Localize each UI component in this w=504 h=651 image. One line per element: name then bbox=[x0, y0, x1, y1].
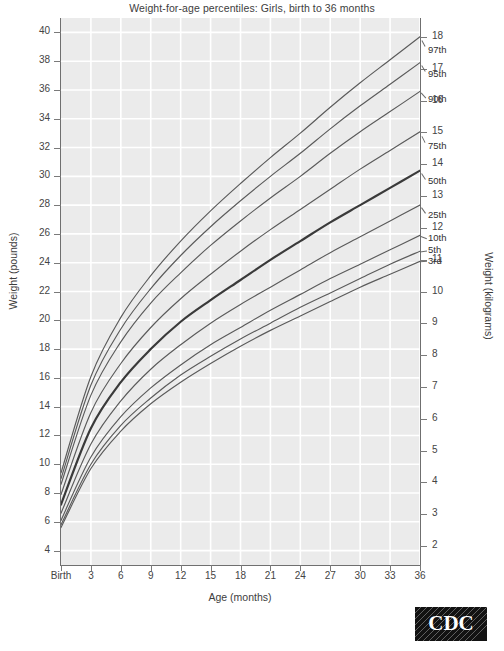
y-tick-left bbox=[54, 119, 61, 120]
percentile-leader-5th bbox=[420, 250, 427, 252]
percentile-leader-90th bbox=[421, 93, 426, 99]
y-tick-left bbox=[54, 464, 61, 465]
y-tick-left bbox=[54, 349, 61, 350]
y-tick-label-left: 24 bbox=[18, 256, 50, 267]
y-tick-left bbox=[54, 435, 61, 436]
x-tick-label: 9 bbox=[148, 570, 154, 581]
chart-title: Weight-for-age percentiles: Girls, birth… bbox=[0, 2, 504, 14]
y-tick-right bbox=[420, 482, 427, 483]
y-tick-left bbox=[54, 32, 61, 33]
y-tick-label-right: 4 bbox=[432, 475, 458, 486]
percentile-label-90th: 90th bbox=[428, 93, 447, 104]
y-tick-label-right: 12 bbox=[432, 221, 458, 232]
x-tick-label: 33 bbox=[385, 570, 396, 581]
svg-text:CDC: CDC bbox=[428, 611, 474, 635]
x-tick-label: 24 bbox=[295, 570, 306, 581]
y-tick-left bbox=[54, 205, 61, 206]
y-tick-label-right: 3 bbox=[432, 507, 458, 518]
y-tick-left bbox=[54, 61, 61, 62]
y-tick-label-left: 12 bbox=[18, 428, 50, 439]
x-tick-label: Birth bbox=[51, 570, 72, 581]
y-tick-right bbox=[420, 355, 427, 356]
y-tick-label-right: 7 bbox=[432, 380, 458, 391]
y-tick-label-left: 16 bbox=[18, 371, 50, 382]
x-tick-label: 21 bbox=[265, 570, 276, 581]
x-tick-label: 18 bbox=[235, 570, 246, 581]
y-tick-label-right: 5 bbox=[432, 444, 458, 455]
y-tick-label-right: 15 bbox=[432, 125, 458, 136]
y-tick-label-left: 18 bbox=[18, 342, 50, 353]
y-tick-right bbox=[420, 292, 427, 293]
x-tick-label: 36 bbox=[414, 570, 425, 581]
y-tick-label-right: 2 bbox=[432, 539, 458, 550]
y-tick-label-left: 38 bbox=[18, 54, 50, 65]
y-tick-right bbox=[420, 164, 427, 165]
y-tick-right bbox=[420, 419, 427, 420]
growth-chart: Weight-for-age percentiles: Girls, birth… bbox=[0, 0, 504, 651]
y-tick-left bbox=[54, 320, 61, 321]
y-tick-right bbox=[420, 101, 427, 102]
percentile-label-95th: 95th bbox=[428, 68, 447, 79]
x-tick-label: 12 bbox=[175, 570, 186, 581]
y-tick-left bbox=[54, 234, 61, 235]
y-tick-label-left: 40 bbox=[18, 25, 50, 36]
percentile-label-25th: 25th bbox=[428, 209, 447, 220]
y-tick-left bbox=[54, 292, 61, 293]
percentile-label-10th: 10th bbox=[428, 232, 447, 243]
y-tick-label-left: 14 bbox=[18, 400, 50, 411]
percentile-leader-50th bbox=[421, 173, 426, 179]
y-tick-label-left: 10 bbox=[18, 457, 50, 468]
y-axis-left-title: Weight (pounds) bbox=[7, 211, 19, 331]
x-tick-label: 27 bbox=[325, 570, 336, 581]
y-tick-right bbox=[420, 196, 427, 197]
y-tick-left bbox=[54, 551, 61, 552]
y-tick-left bbox=[54, 493, 61, 494]
percentile-label-75th: 75th bbox=[428, 140, 447, 151]
x-axis-title: Age (months) bbox=[0, 591, 480, 603]
y-tick-label-left: 32 bbox=[18, 141, 50, 152]
x-tick-label: 15 bbox=[205, 570, 216, 581]
y-tick-right bbox=[420, 451, 427, 452]
y-tick-right bbox=[420, 546, 427, 547]
y-tick-label-right: 13 bbox=[432, 189, 458, 200]
y-tick-left bbox=[54, 522, 61, 523]
y-tick-label-left: 30 bbox=[18, 169, 50, 180]
percentile-label-97th: 97th bbox=[428, 44, 447, 55]
y-tick-label-right: 14 bbox=[432, 157, 458, 168]
y-tick-label-right: 9 bbox=[432, 316, 458, 327]
percentile-leader-75th bbox=[422, 136, 426, 143]
y-tick-label-left: 22 bbox=[18, 285, 50, 296]
x-tick-label: 30 bbox=[355, 570, 366, 581]
cdc-logo: CDC bbox=[415, 607, 487, 641]
y-tick-label-left: 20 bbox=[18, 313, 50, 324]
y-tick-label-left: 34 bbox=[18, 112, 50, 123]
x-tick-label: 3 bbox=[88, 570, 94, 581]
y-tick-label-left: 36 bbox=[18, 83, 50, 94]
y-tick-right bbox=[420, 323, 427, 324]
percentile-label-5th: 5th bbox=[428, 244, 441, 255]
y-tick-left bbox=[54, 263, 61, 264]
y-tick-right bbox=[420, 387, 427, 388]
percentile-label-3rd: 3rd bbox=[428, 255, 442, 266]
y-tick-right bbox=[420, 514, 427, 515]
cdc-logo-mark: CDC bbox=[415, 607, 487, 641]
y-tick-label-right: 10 bbox=[432, 285, 458, 296]
percentile-leader-97th bbox=[421, 41, 425, 48]
y-tick-right bbox=[420, 37, 427, 38]
y-axis-right-title: Weight (kilograms) bbox=[483, 231, 495, 361]
y-tick-label-right: 6 bbox=[432, 412, 458, 423]
plot-area bbox=[61, 18, 420, 565]
percentile-leader-3rd bbox=[420, 261, 427, 262]
y-tick-label-left: 26 bbox=[18, 227, 50, 238]
y-tick-left bbox=[54, 407, 61, 408]
y-tick-left bbox=[54, 378, 61, 379]
y-tick-right bbox=[420, 228, 427, 229]
y-tick-right bbox=[420, 132, 427, 133]
y-tick-label-right: 8 bbox=[432, 348, 458, 359]
y-tick-label-left: 4 bbox=[18, 544, 50, 555]
percentile-leader-25th bbox=[421, 207, 426, 213]
y-tick-label-left: 8 bbox=[18, 486, 50, 497]
y-tick-label-right: 18 bbox=[432, 30, 458, 41]
y-tick-label-left: 28 bbox=[18, 198, 50, 209]
y-tick-left bbox=[54, 90, 61, 91]
